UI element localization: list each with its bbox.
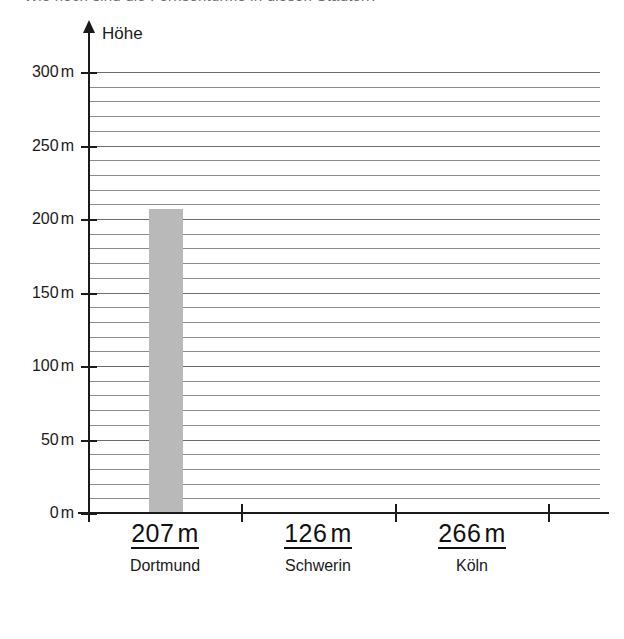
y-axis-tick-label: 300m: [0, 63, 74, 81]
category-value-number: 207: [131, 519, 174, 547]
y-tick-unit: m: [61, 431, 74, 448]
y-axis-tick-label: 100m: [0, 357, 74, 375]
category-value-number: 126: [284, 519, 327, 547]
category-value-unit: m: [330, 519, 351, 547]
y-axis-arrow-icon: [83, 20, 95, 33]
y-axis-tick: [81, 146, 97, 148]
category-name: Köln: [377, 557, 567, 575]
y-tick-unit: m: [61, 357, 74, 374]
y-tick-unit: m: [61, 137, 74, 154]
y-axis-title: Höhe: [102, 24, 143, 44]
y-tick-unit: m: [61, 63, 74, 80]
y-axis-tick: [81, 293, 97, 295]
y-axis-tick-label: 0m: [0, 504, 74, 522]
category-value: 126m: [284, 520, 352, 549]
y-tick-value: 250: [32, 137, 59, 154]
chart-bars: [89, 72, 600, 513]
bar-chart: Höhe 300m250m200m150m100m50m0m 207mDortm…: [0, 0, 624, 639]
category-value-unit: m: [484, 519, 505, 547]
category-value-unit: m: [177, 519, 198, 547]
y-axis-tick-label: 50m: [0, 431, 74, 449]
y-tick-value: 0: [50, 504, 59, 521]
y-tick-value: 300: [32, 63, 59, 80]
y-tick-value: 200: [32, 210, 59, 227]
y-tick-value: 100: [32, 357, 59, 374]
y-axis-tick: [81, 440, 97, 442]
y-tick-value: 50: [41, 431, 59, 448]
category-value: 207m: [131, 520, 199, 549]
y-tick-unit: m: [61, 284, 74, 301]
y-axis-tick: [81, 219, 97, 221]
category-value: 266m: [438, 520, 506, 549]
y-axis-tick: [81, 366, 97, 368]
x-axis-line: [78, 512, 609, 514]
y-axis-tick-label: 200m: [0, 210, 74, 228]
y-tick-unit: m: [61, 210, 74, 227]
y-axis-tick-label: 150m: [0, 284, 74, 302]
y-tick-value: 150: [32, 284, 59, 301]
bar-dortmund: [149, 209, 183, 513]
y-tick-unit: m: [61, 504, 74, 521]
category-value-number: 266: [438, 519, 481, 547]
y-axis-tick-label: 250m: [0, 137, 74, 155]
y-axis-tick: [81, 72, 97, 74]
category-group-köln: 266mKöln: [377, 520, 567, 575]
